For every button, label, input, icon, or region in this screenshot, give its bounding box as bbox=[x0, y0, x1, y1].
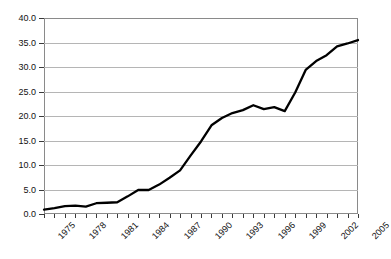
x-tick-label: 1999 bbox=[307, 220, 328, 241]
x-tick-mark bbox=[232, 214, 233, 218]
x-tick-mark bbox=[75, 214, 76, 218]
x-tick-mark bbox=[306, 214, 307, 218]
x-tick-label: 1984 bbox=[150, 220, 171, 241]
x-tick-mark bbox=[222, 214, 223, 218]
x-tick-mark bbox=[170, 214, 171, 218]
data-series-line bbox=[44, 18, 358, 214]
x-tick-mark bbox=[201, 214, 202, 218]
x-tick-label: 2002 bbox=[338, 220, 359, 241]
x-tick-mark bbox=[180, 214, 181, 218]
x-tick-mark bbox=[337, 214, 338, 218]
x-tick-mark bbox=[54, 214, 55, 218]
x-tick-mark bbox=[117, 214, 118, 218]
x-tick-label: 1996 bbox=[276, 220, 297, 241]
x-tick-mark bbox=[159, 214, 160, 218]
x-tick-mark bbox=[128, 214, 129, 218]
y-tick-label: 0.0 bbox=[2, 210, 36, 219]
x-tick-mark bbox=[86, 214, 87, 218]
x-tick-mark bbox=[274, 214, 275, 218]
x-tick-mark bbox=[348, 214, 349, 218]
x-tick-mark bbox=[96, 214, 97, 218]
x-tick-mark bbox=[243, 214, 244, 218]
y-tick-label: 15.0 bbox=[2, 137, 36, 146]
y-tick-label: 20.0 bbox=[2, 112, 36, 121]
x-tick-mark bbox=[65, 214, 66, 218]
y-tick-label: 5.0 bbox=[2, 186, 36, 195]
x-tick-mark bbox=[211, 214, 212, 218]
x-tick-mark bbox=[285, 214, 286, 218]
x-tick-mark bbox=[316, 214, 317, 218]
x-tick-label: 1981 bbox=[119, 220, 140, 241]
y-tick-label: 25.0 bbox=[2, 88, 36, 97]
y-tick-label: 40.0 bbox=[2, 14, 36, 23]
x-tick-label: 1993 bbox=[244, 220, 265, 241]
x-tick-mark bbox=[138, 214, 139, 218]
x-tick-mark bbox=[107, 214, 108, 218]
x-tick-mark bbox=[295, 214, 296, 218]
x-tick-mark bbox=[253, 214, 254, 218]
y-tick-label: 10.0 bbox=[2, 161, 36, 170]
x-tick-label: 2005 bbox=[370, 220, 391, 241]
x-tick-label: 1987 bbox=[181, 220, 202, 241]
x-tick-label: 1978 bbox=[87, 220, 108, 241]
x-tick-mark bbox=[149, 214, 150, 218]
y-tick-label: 30.0 bbox=[2, 63, 36, 72]
x-tick-mark bbox=[327, 214, 328, 218]
x-tick-mark bbox=[44, 214, 45, 218]
x-tick-mark bbox=[358, 214, 359, 218]
y-tick-label: 35.0 bbox=[2, 39, 36, 48]
x-tick-mark bbox=[264, 214, 265, 218]
x-tick-label: 1975 bbox=[56, 220, 77, 241]
x-tick-label: 1990 bbox=[213, 220, 234, 241]
x-tick-mark bbox=[191, 214, 192, 218]
